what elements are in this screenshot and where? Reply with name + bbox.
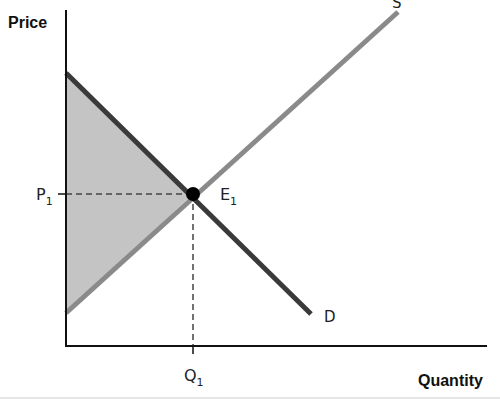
surplus-area — [66, 73, 193, 313]
p1-label: P1 — [36, 185, 53, 208]
equilibrium-label: E1 — [220, 185, 237, 208]
x-axis-title: Quantity — [418, 372, 483, 389]
supply-label: S — [392, 0, 402, 12]
y-axis-title: Price — [8, 14, 47, 31]
demand-label: D — [324, 308, 336, 326]
equilibrium-point — [186, 187, 200, 201]
q1-label: Q1 — [184, 366, 204, 389]
supply-demand-chart: Price Quantity S D E1 P1 Q1 — [0, 0, 500, 408]
